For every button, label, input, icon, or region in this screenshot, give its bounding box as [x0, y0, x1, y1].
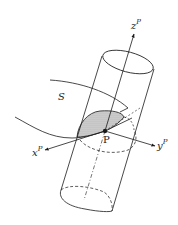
point-p-label-text: P	[103, 134, 110, 145]
cylinder-bottom-back-edge-dashed	[61, 186, 112, 211]
y-axis-arrow	[105, 131, 155, 146]
point-p-label: P	[103, 135, 110, 145]
x-axis-label-sup: P	[38, 145, 43, 153]
y-axis-label-sup: P	[163, 138, 168, 146]
y-axis-label-base: y	[157, 140, 163, 151]
z-axis-label-sup: P	[136, 18, 141, 26]
cylinder-axis-lower	[84, 131, 105, 200]
diagram-figure	[0, 0, 178, 225]
x-axis-label-base: x	[32, 147, 38, 158]
point-p-marker	[103, 129, 107, 133]
cylinder-top-ellipse	[100, 46, 155, 79]
y-axis-label: yP	[157, 140, 167, 151]
cylinder-right-edge	[112, 69, 154, 211]
z-axis-label: zP	[131, 20, 141, 31]
x-axis-arrow	[45, 131, 105, 150]
surface-label: S	[58, 92, 65, 102]
cylinder-mid-ellipse-back-dashed	[124, 117, 134, 130]
surface-label-text: S	[58, 91, 65, 102]
x-axis-label: xP	[32, 147, 42, 158]
